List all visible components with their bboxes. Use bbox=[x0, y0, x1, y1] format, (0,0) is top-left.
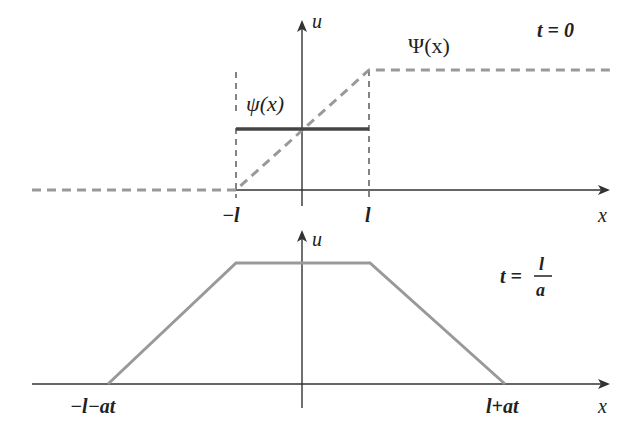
bottom-time-numerator: l bbox=[539, 254, 544, 274]
trapezoid-curve bbox=[108, 263, 505, 384]
tick-pos-l: l bbox=[365, 204, 371, 226]
bottom-time-label: t = bbox=[500, 265, 522, 287]
top-time-label: t = 0 bbox=[537, 19, 574, 41]
tick-right: l+at bbox=[486, 395, 520, 417]
bottom-u-label: u bbox=[312, 228, 322, 250]
top-u-label: u bbox=[312, 10, 322, 32]
top-panel: u Ψ(x) t = 0 ψ(x) −l l x bbox=[32, 10, 612, 226]
bottom-x-label: x bbox=[597, 395, 607, 417]
bottom-time-denominator: a bbox=[536, 280, 545, 300]
top-x-label: x bbox=[597, 204, 607, 226]
psi-small-label: ψ(x) bbox=[246, 91, 284, 116]
psi-big-label: Ψ(x) bbox=[408, 33, 450, 58]
tick-left: −l−at bbox=[70, 395, 117, 417]
tick-neg-l: −l bbox=[222, 204, 240, 226]
diagram-canvas: u Ψ(x) t = 0 ψ(x) −l l x u t = l a −l−at… bbox=[0, 0, 641, 436]
bottom-panel: u t = l a −l−at l+at x bbox=[32, 228, 608, 417]
